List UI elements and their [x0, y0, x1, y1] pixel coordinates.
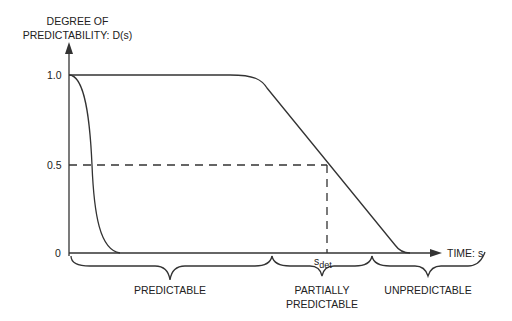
y-axis-arrow-icon — [65, 42, 73, 54]
x-axis-arrow-icon — [430, 249, 442, 257]
x-axis-label: TIME: s — [447, 247, 483, 259]
predictability-diagram: DEGREE OF PREDICTABILITY: D(s) 1.0 0.5 0… — [0, 0, 512, 321]
y-tick-0-5: 0.5 — [47, 159, 62, 171]
y-axis-title-line1: DEGREE OF — [25, 15, 130, 27]
region-unpredictable-label: UNPREDICTABLE — [378, 284, 478, 296]
brace-predictable — [71, 256, 272, 280]
fast-decay-curve — [69, 75, 120, 253]
region-predictable-label: PREDICTABLE — [120, 284, 220, 296]
y-tick-1: 1.0 — [47, 69, 62, 81]
diagram-graphics — [0, 0, 512, 321]
y-tick-0: 0 — [55, 247, 61, 259]
region-partially-label-line2: PREDICTABLE — [272, 298, 372, 310]
slow-decay-curve — [69, 75, 410, 253]
s-det-marker: sdet — [314, 255, 332, 270]
y-axis-title-line2: PREDICTABILITY: D(s) — [15, 29, 140, 41]
s-det-subscript: det — [319, 260, 332, 270]
region-partially-label-line1: PARTIALLY — [272, 284, 372, 296]
